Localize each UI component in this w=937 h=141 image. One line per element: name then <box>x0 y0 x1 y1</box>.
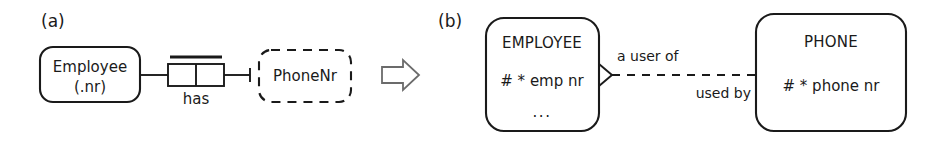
panel-a-label: (a) <box>41 11 65 31</box>
er-relationship-label-a-user-of: a user of <box>617 48 680 64</box>
panel-a: (a) Employee (.nr) has <box>40 11 351 108</box>
er-entity-phone-attribute-phone-nr: # * phone nr <box>783 77 881 95</box>
orm-entity-type-employee-reference-mode: (.nr) <box>74 78 106 96</box>
orm-entity-type-employee-name: Employee <box>53 58 127 76</box>
er-entity-phone-name: PHONE <box>804 33 858 51</box>
orm-to-er-transformation-figure: (a) Employee (.nr) has <box>0 0 937 141</box>
orm-predicate-reading-has: has <box>183 90 210 108</box>
er-entity-employee: EMPLOYEE # * emp nr ... <box>486 18 599 131</box>
er-entity-phone: PHONE # * phone nr <box>756 14 906 131</box>
orm-value-type-phonenr: PhoneNr <box>259 50 351 102</box>
panel-b-label: (b) <box>438 11 462 31</box>
er-entity-employee-name: EMPLOYEE <box>502 34 582 52</box>
panel-b: (b) EMPLOYEE # * emp nr ... a user of us… <box>438 11 906 131</box>
figure-canvas: (a) Employee (.nr) has <box>0 0 937 141</box>
transform-arrow <box>382 60 419 90</box>
er-entity-employee-attribute-ellipsis: ... <box>533 103 552 121</box>
orm-fact-type-has: has <box>168 57 224 108</box>
orm-value-type-phonenr-name: PhoneNr <box>273 67 338 85</box>
er-crows-foot-icon-lower <box>599 75 612 86</box>
er-crows-foot-icon-upper <box>599 64 612 75</box>
er-entity-employee-attribute-emp-nr: # * emp nr <box>500 72 584 90</box>
er-relationship-label-used-by: used by <box>696 85 751 101</box>
orm-entity-type-employee: Employee (.nr) <box>40 47 140 102</box>
transform-arrow-icon <box>382 60 419 90</box>
er-relationship-employee-phone: a user of used by <box>599 48 756 101</box>
